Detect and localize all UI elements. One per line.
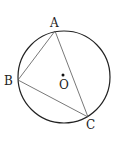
label-a: A [49, 16, 59, 30]
segment-bc [18, 80, 88, 117]
circle-diagram: A B C O [0, 0, 119, 141]
segment-ac [55, 31, 88, 117]
label-o: O [59, 78, 69, 92]
center-point [62, 74, 65, 77]
circumscribed-circle [18, 31, 110, 123]
label-b: B [4, 74, 13, 88]
label-c: C [86, 118, 95, 132]
